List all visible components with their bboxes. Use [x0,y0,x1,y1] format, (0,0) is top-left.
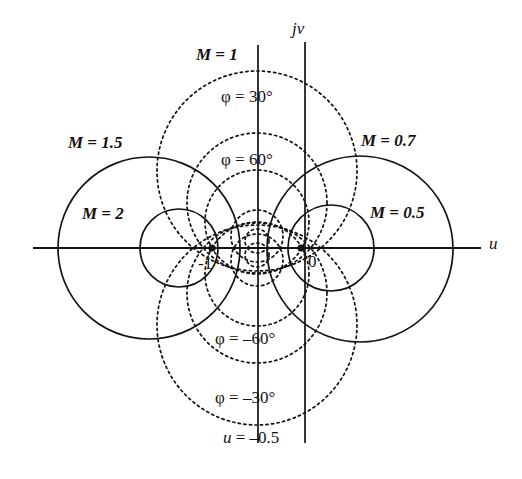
phi-30-label: φ = 30° [221,88,273,105]
m-circle-phase-circle-plot [0,0,522,479]
u-italic-glyph: u [223,428,232,447]
m-circle-0p7 [267,156,453,342]
phi-minus-60-label: φ = –60° [215,330,275,347]
origin-dot [297,244,304,251]
m-equals-0p5-label: M = 0.5 [370,204,425,221]
minus-one-point-label: -1 [198,255,212,272]
m-equals-1-label: M = 1 [196,46,238,63]
m-equals-0p7-label: M = 0.7 [361,132,416,149]
u-equals-value: = –0.5 [232,428,280,447]
u-equals-minus-0p5-label: u = –0.5 [223,429,279,446]
m-equals-2-label: M = 2 [82,205,124,222]
phase-circle-m85 [245,243,269,267]
m-equals-1p5-label: M = 1.5 [68,134,123,151]
origin-point-label: 0 [308,253,317,270]
phase-circle-60 [205,170,309,274]
jv-axis-label: jv [292,20,304,37]
phi-minus-30-label: φ = –30° [215,389,275,406]
m-circle-group [58,156,453,342]
u-axis-label: u [489,235,498,252]
phase-circle-m60 [205,222,309,326]
minus-one-dot [208,244,215,251]
phase-circle-85 [245,229,269,253]
figure-container: u jv M = 1 M = 1.5 M = 2 M = 0.7 M = 0.5… [0,0,522,479]
phi-60-label: φ = 60° [221,151,273,168]
